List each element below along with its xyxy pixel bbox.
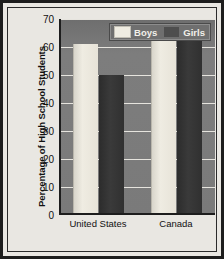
y-tick-label: 50 xyxy=(43,70,54,81)
legend-swatch-boys-icon xyxy=(114,26,131,38)
legend-entry-girls: Girls xyxy=(163,26,205,38)
y-tick-label: 60 xyxy=(43,42,54,53)
y-tick-label: 0 xyxy=(48,210,54,221)
y-tick-label: 70 xyxy=(43,14,54,25)
bar-groups xyxy=(59,19,215,215)
y-tick-label: 20 xyxy=(43,154,54,165)
legend-label-girls: Girls xyxy=(183,27,205,38)
x-axis-line xyxy=(59,213,215,215)
chart-screenshot: Percentage of High School Students 01020… xyxy=(0,0,224,259)
x-tick-label: Canada xyxy=(159,218,192,229)
x-axis-tick-labels: United StatesCanada xyxy=(59,218,215,238)
plot-area: Boys Girls xyxy=(59,19,215,215)
x-tick-label: United States xyxy=(69,218,126,229)
legend: Boys Girls xyxy=(109,23,211,41)
bar-united-states-boys xyxy=(73,44,98,215)
y-tick-label: 10 xyxy=(43,182,54,193)
y-axis-tick-labels: 010203040506070 xyxy=(31,19,57,215)
bar-canada-girls xyxy=(177,33,202,215)
bar-canada-boys xyxy=(151,39,176,215)
bar-united-states-girls xyxy=(99,75,124,215)
y-tick-label: 40 xyxy=(43,98,54,109)
legend-label-boys: Boys xyxy=(134,27,157,38)
legend-entry-boys: Boys xyxy=(114,26,157,38)
y-tick-label: 30 xyxy=(43,126,54,137)
y-axis-line xyxy=(59,19,61,215)
legend-swatch-girls-icon xyxy=(163,26,180,38)
